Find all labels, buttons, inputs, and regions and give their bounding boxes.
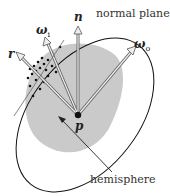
label-omega-i: ωi: [36, 24, 50, 39]
n-arrowhead: [74, 26, 82, 34]
label-normal-plane: normal plane: [96, 8, 170, 19]
label-n: n: [74, 11, 83, 23]
hemisphere-shape: [25, 44, 123, 153]
diagram-canvas: [0, 0, 170, 196]
label-omega-o: ωo: [134, 38, 150, 53]
label-p: p: [75, 120, 83, 132]
point-p-dot: [75, 112, 81, 118]
label-r: r: [8, 48, 14, 60]
label-hemisphere: hemisphere: [90, 174, 156, 185]
